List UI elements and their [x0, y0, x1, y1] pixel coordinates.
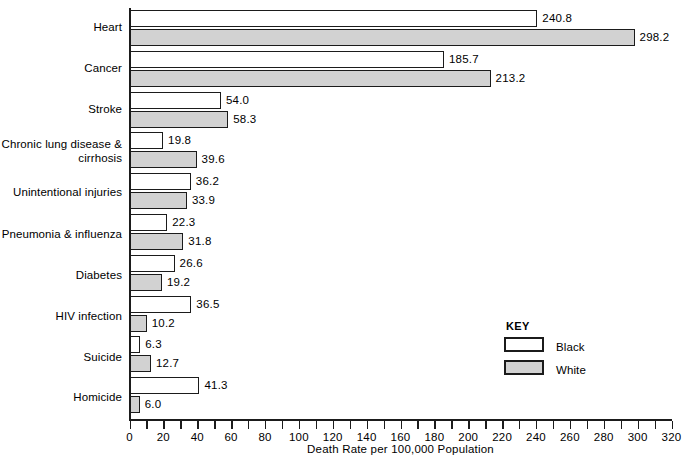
legend: KEY Black White [0, 0, 682, 460]
legend-title: KEY [506, 320, 530, 332]
legend-swatch-black [504, 337, 544, 352]
bar-chart: Heart Cancer Stroke Chronic lung disease… [0, 0, 682, 460]
legend-swatch-white [504, 360, 544, 375]
legend-label-black: Black [556, 341, 585, 353]
legend-label-white: White [556, 364, 586, 376]
